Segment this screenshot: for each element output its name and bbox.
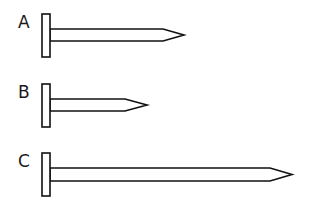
nail-c-shaft — [50, 168, 292, 181]
nail-b-head — [42, 84, 50, 127]
nail-c-head — [42, 153, 50, 196]
nail-c — [42, 153, 292, 196]
nail-b — [42, 84, 147, 127]
nail-a — [42, 14, 184, 57]
nail-a-shaft — [50, 29, 184, 41]
nail-b-shaft — [50, 99, 147, 111]
nails-svg — [0, 0, 312, 208]
nail-a-head — [42, 14, 50, 57]
